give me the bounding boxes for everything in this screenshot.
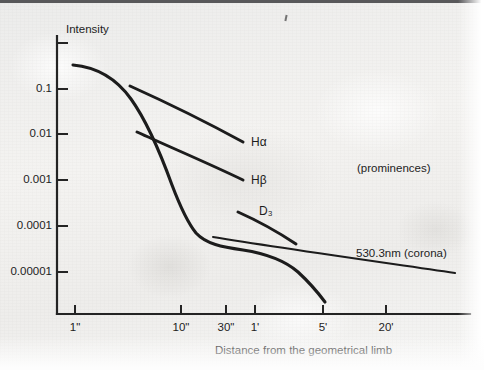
x-axis-title: Distance from the geometrical limb [215, 345, 392, 357]
x-tick-label-0: 1" [55, 322, 95, 334]
h-alpha-curve [130, 86, 243, 142]
y-tick-label-1: 0.01 [0, 128, 52, 140]
y-axis-ticks [57, 43, 67, 272]
x-tick-label-5: 20' [367, 322, 405, 334]
h-beta-label: Hβ [251, 174, 267, 186]
y-tick-label-3: 0.0001 [0, 220, 52, 232]
prominence-curve [73, 65, 325, 302]
x-tick-label-4: 5' [304, 322, 342, 334]
figure-canvas: Intensity 0.1 0.01 0.001 0.0001 0.00001 … [0, 0, 484, 370]
h-beta-curve [137, 132, 243, 180]
h-alpha-label: Hα [251, 136, 267, 148]
y-tick-label-0: 0.1 [0, 83, 52, 95]
y-tick-label-2: 0.001 [0, 174, 52, 186]
prominences-annotation: (prominences) [357, 163, 431, 175]
x-axis-ticks [75, 306, 386, 314]
chart-plot-area [0, 0, 484, 370]
corona-annotation: 530.3nm (corona) [356, 248, 447, 260]
y-axis-title: Intensity [66, 24, 109, 36]
d3-label: D₃ [259, 205, 273, 217]
x-tick-label-3: 1' [236, 322, 274, 334]
y-tick-label-4: 0.00001 [0, 266, 52, 278]
x-tick-label-1: 10" [161, 322, 201, 334]
